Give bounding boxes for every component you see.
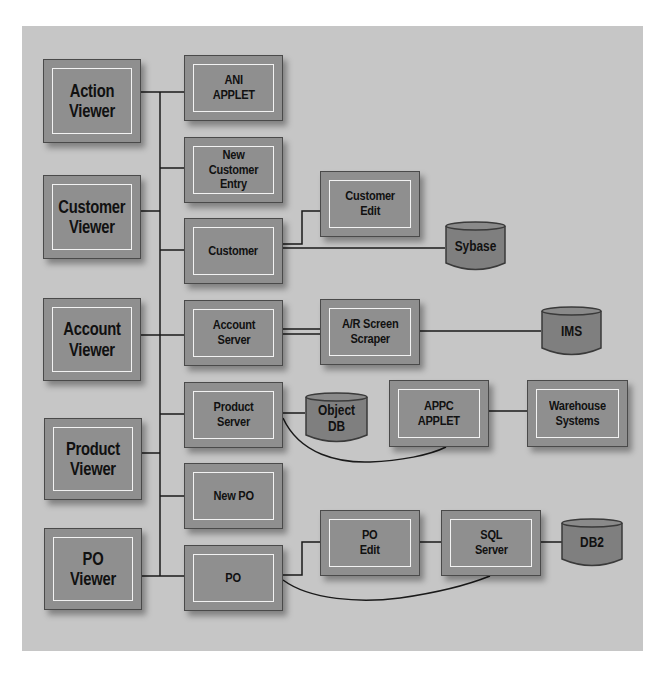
customer-viewer-label: Customer Viewer (59, 197, 126, 237)
account-viewer-label: Account Viewer (63, 319, 120, 359)
object-db-database: Object DB (305, 392, 368, 445)
db2-database: DB2 (561, 518, 623, 569)
po-viewer-label: PO Viewer (70, 549, 116, 589)
appc-applet-box: APPC APPLET (389, 380, 489, 447)
ar-screen-scraper-box: A/R Screen Scraper (320, 299, 420, 365)
new-customer-entry-box: New Customer Entry (184, 137, 283, 203)
product-viewer-label: Product Viewer (66, 439, 120, 479)
po-label: PO (226, 571, 241, 586)
new-po-box: New PO (184, 463, 283, 529)
po-edit-label: PO Edit (360, 528, 380, 557)
db2-label: DB2 (566, 535, 619, 551)
sybase-database: Sybase (445, 221, 506, 273)
object-db-label: Object DB (310, 403, 364, 434)
product-viewer-box: Product Viewer (44, 418, 142, 500)
product-server-label: Product Server (214, 400, 254, 429)
account-viewer-box: Account Viewer (43, 298, 141, 381)
action-viewer-box: Action Viewer (43, 59, 141, 143)
appc-applet-label: APPC APPLET (418, 399, 460, 428)
ims-label: IMS (546, 324, 598, 340)
sql-server-label: SQL Server (475, 528, 508, 557)
ar-screen-scraper-label: A/R Screen Scraper (342, 317, 398, 346)
product-server-box: Product Server (184, 382, 283, 448)
customer-label: Customer (209, 244, 259, 259)
warehouse-systems-label: Warehouse Systems (549, 399, 606, 428)
customer-box: Customer (184, 218, 283, 284)
customer-viewer-box: Customer Viewer (43, 175, 141, 259)
account-server-label: Account Server (212, 318, 254, 347)
po-viewer-box: PO Viewer (44, 528, 142, 610)
account-server-box: Account Server (184, 300, 283, 366)
po-box: PO (184, 545, 283, 611)
po-edit-box: PO Edit (320, 510, 420, 576)
warehouse-systems-box: Warehouse Systems (527, 380, 628, 447)
customer-edit-label: Customer Edit (345, 189, 395, 218)
new-customer-entry-label: New Customer Entry (200, 148, 267, 192)
action-viewer-label: Action Viewer (69, 81, 115, 121)
sql-server-box: SQL Server (441, 510, 541, 576)
ims-database: IMS (541, 306, 602, 358)
customer-edit-box: Customer Edit (320, 171, 420, 237)
ani-applet-box: ANI APPLET (184, 55, 283, 121)
new-po-label: New PO (213, 489, 253, 504)
sybase-label: Sybase (450, 239, 502, 255)
ani-applet-label: ANI APPLET (212, 73, 254, 102)
